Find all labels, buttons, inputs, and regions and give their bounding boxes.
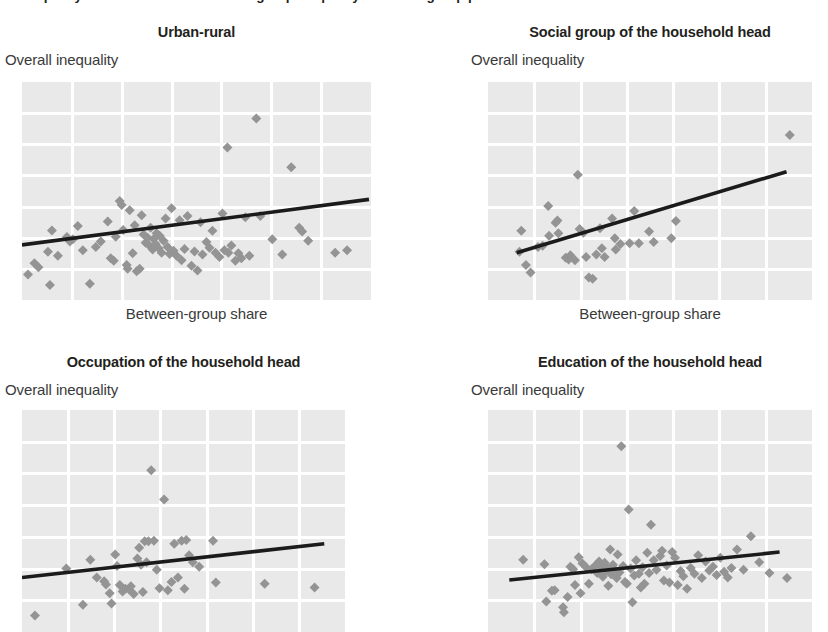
scatter-marker (310, 583, 320, 593)
scatter-marker (782, 573, 792, 583)
scatter-marker (161, 213, 171, 223)
plot-area-occupation (22, 410, 345, 632)
scatter-marker (570, 580, 580, 590)
scatter-marker (605, 545, 615, 555)
scatter-marker (553, 228, 563, 238)
scatter-plot-occupation (22, 410, 345, 632)
scatter-marker (128, 248, 138, 258)
plot-area-education (488, 410, 812, 632)
scatter-marker (631, 555, 641, 565)
scatter-marker (613, 550, 623, 560)
scatter-marker (539, 559, 549, 569)
scatter-marker (738, 565, 748, 575)
scatter-marker (138, 587, 148, 597)
figure-caption: Inequality is correlated with between-gr… (20, 0, 800, 3)
scatter-marker (576, 588, 586, 598)
trendline-education (509, 552, 779, 580)
scatter-plot-education (488, 410, 812, 632)
scatter-marker (584, 579, 594, 589)
scatter-marker (518, 555, 528, 565)
scatter-marker (746, 531, 756, 541)
scatter-marker (267, 234, 277, 244)
plot-area-social-group (488, 82, 812, 300)
y-axis-label-urban-rural: Overall inequality (5, 51, 118, 68)
scatter-marker (207, 226, 217, 236)
scatter-marker (541, 597, 551, 607)
scatter-marker (167, 203, 177, 213)
scatter-marker (543, 201, 553, 211)
scatter-marker (103, 217, 113, 227)
scatter-marker (211, 578, 221, 588)
panel-title-urban-rural: Urban-rural (22, 24, 371, 40)
plot-area-urban-rural (22, 82, 371, 300)
scatter-marker (330, 248, 340, 258)
panel-title-social-group: Social group of the household head (488, 24, 812, 40)
scatter-marker (516, 226, 526, 236)
panel-title-occupation: Occupation of the household head (22, 354, 345, 370)
scatter-marker (754, 557, 764, 567)
scatter-marker (180, 244, 190, 254)
x-axis-label-social-group: Between-group share (488, 305, 812, 322)
scatter-marker (732, 545, 742, 555)
scatter-plot-urban-rural (22, 82, 371, 300)
scatter-marker (85, 555, 95, 565)
scatter-points-occupation (30, 465, 320, 620)
scatter-marker (53, 251, 63, 261)
scatter-marker (603, 581, 613, 591)
gridlines-occupation (22, 410, 345, 632)
scatter-marker (110, 550, 120, 560)
y-axis-label-occupation: Overall inequality (5, 381, 118, 398)
scatter-marker (277, 250, 287, 260)
y-axis-label-social-group: Overall inequality (471, 51, 584, 68)
scatter-marker (45, 280, 55, 290)
scatter-marker (642, 548, 652, 558)
y-axis-label-education: Overall inequality (471, 381, 584, 398)
scatter-marker (342, 245, 352, 255)
scatter-marker (85, 279, 95, 289)
panel-occupation: Occupation of the household head Overall… (22, 354, 345, 632)
panel-education: Education of the household head Overall … (488, 354, 812, 632)
scatter-marker (137, 210, 147, 220)
scatter-marker (286, 162, 296, 172)
scatter-marker (155, 583, 165, 593)
scatter-marker (646, 520, 656, 530)
scatter-marker (73, 221, 83, 231)
panel-title-education: Education of the household head (488, 354, 812, 370)
scatter-marker (183, 211, 193, 221)
scatter-marker (47, 226, 57, 236)
x-axis-label-urban-rural: Between-group share (22, 305, 371, 322)
scatter-marker (600, 252, 610, 262)
scatter-marker (30, 611, 40, 621)
scatter-marker (78, 245, 88, 255)
panel-urban-rural: Urban-rural Overall inequality Between-g… (22, 24, 371, 314)
scatter-marker (644, 226, 654, 236)
scatter-plot-social-group (488, 82, 812, 300)
scatter-marker (682, 584, 692, 594)
scatter-marker (260, 579, 270, 589)
scatter-marker (785, 130, 795, 140)
scatter-marker (244, 251, 254, 261)
gridlines-social-group (488, 82, 812, 300)
scatter-points-education (518, 441, 792, 617)
panel-social-group: Social group of the household head Overa… (488, 24, 812, 314)
scatter-marker (179, 584, 189, 594)
scatter-marker (43, 247, 53, 257)
